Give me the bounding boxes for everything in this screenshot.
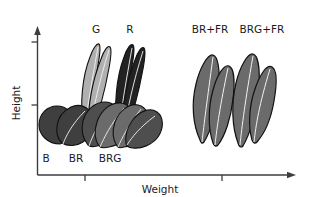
x-axis-label: Weight [142,183,179,195]
group-label-BR-FR: BR+FR [192,23,229,35]
group-label-B: B [42,152,49,164]
group-label-R: R [126,23,133,35]
x-axis-arrowhead [287,172,296,179]
y-axis-label: Height [10,86,22,121]
group-label-BR: BR [69,152,84,164]
group-label-BRG: BRG [99,152,122,164]
rosette-cluster: B BR BRG [39,102,162,164]
far-red-cluster: BR+FR BRG+FR [192,23,285,147]
plant-morphology-diagram: Height Weight G R [0,0,312,197]
y-axis-arrowhead [34,26,41,35]
group-label-BRG-FR: BRG+FR [240,23,285,35]
group-label-G: G [92,23,100,35]
figure-canvas: Height Weight G R [0,0,312,197]
